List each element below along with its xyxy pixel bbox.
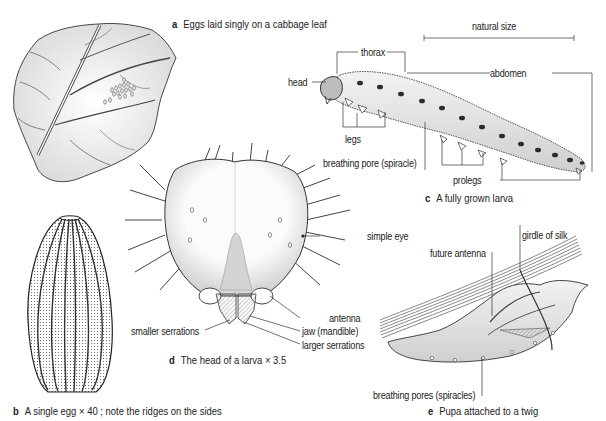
caption-e: ePupa attached to a twig xyxy=(428,405,538,418)
cabbage-leaf-illustration xyxy=(14,23,176,181)
label-girdle-of-silk: girdle of silk xyxy=(522,229,567,241)
label-head: head xyxy=(288,76,307,88)
caption-d-text: The head of a larva × 3.5 xyxy=(181,354,286,366)
label-jaw: jaw (mandible) xyxy=(302,325,358,337)
caption-c: cA fully grown larva xyxy=(425,192,513,205)
caption-a-text: Eggs laid singly on a cabbage leaf xyxy=(183,18,327,30)
label-antenna: antenna xyxy=(329,312,360,324)
caption-a: aEggs laid singly on a cabbage leaf xyxy=(172,18,327,31)
label-thorax: thorax xyxy=(361,46,385,58)
label-abdomen: abdomen xyxy=(490,67,526,79)
label-prolegs: prolegs xyxy=(453,174,481,186)
caption-b: bA single egg × 40 ; note the ridges on … xyxy=(13,405,222,418)
label-smaller-serrations: smaller serrations xyxy=(131,325,199,337)
caption-b-text: A single egg × 40 ; note the ridges on t… xyxy=(25,405,222,417)
egg-illustration xyxy=(28,216,112,392)
illustration-canvas xyxy=(0,0,606,421)
label-breathing-pores: breathing pores (spiracles) xyxy=(373,389,475,401)
label-larger-serrations: larger serrations xyxy=(302,339,364,351)
larva-head-illustration xyxy=(125,143,350,324)
label-simple-eye: simple eye xyxy=(367,230,408,242)
caption-e-text: Pupa attached to a twig xyxy=(439,405,538,417)
label-future-antenna: future antenna xyxy=(430,247,486,259)
caption-d: dThe head of a larva × 3.5 xyxy=(169,354,286,367)
caption-c-text: A fully grown larva xyxy=(436,192,513,204)
label-spiracle: breathing pore (spiracle) xyxy=(323,157,417,169)
label-natural-size: natural size xyxy=(472,20,516,32)
label-legs: legs xyxy=(345,133,361,145)
